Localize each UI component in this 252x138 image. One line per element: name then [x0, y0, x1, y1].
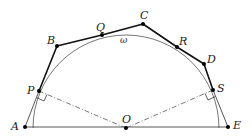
point-D — [202, 62, 206, 66]
label-A: A — [10, 120, 19, 133]
point-A — [23, 125, 27, 129]
segment-OP — [39, 91, 126, 128]
label-omega: ω — [120, 35, 128, 45]
point-C — [141, 22, 145, 26]
point-S — [211, 88, 215, 92]
label-B: B — [46, 34, 55, 47]
label-O: O — [122, 113, 131, 126]
label-Q: Q — [96, 21, 105, 34]
label-D: D — [206, 53, 216, 66]
label-S: S — [217, 82, 225, 95]
segment-SE — [213, 90, 228, 127]
label-E: E — [232, 119, 241, 132]
label-C: C — [140, 9, 149, 22]
geometry-diagram: A P B Q C R D S E O ω — [0, 0, 252, 138]
label-R: R — [178, 35, 187, 48]
point-E — [226, 125, 230, 129]
label-P: P — [26, 84, 35, 97]
point-O — [124, 126, 128, 130]
point-B — [55, 44, 59, 48]
point-P — [37, 89, 41, 93]
segment-OS — [126, 90, 213, 128]
